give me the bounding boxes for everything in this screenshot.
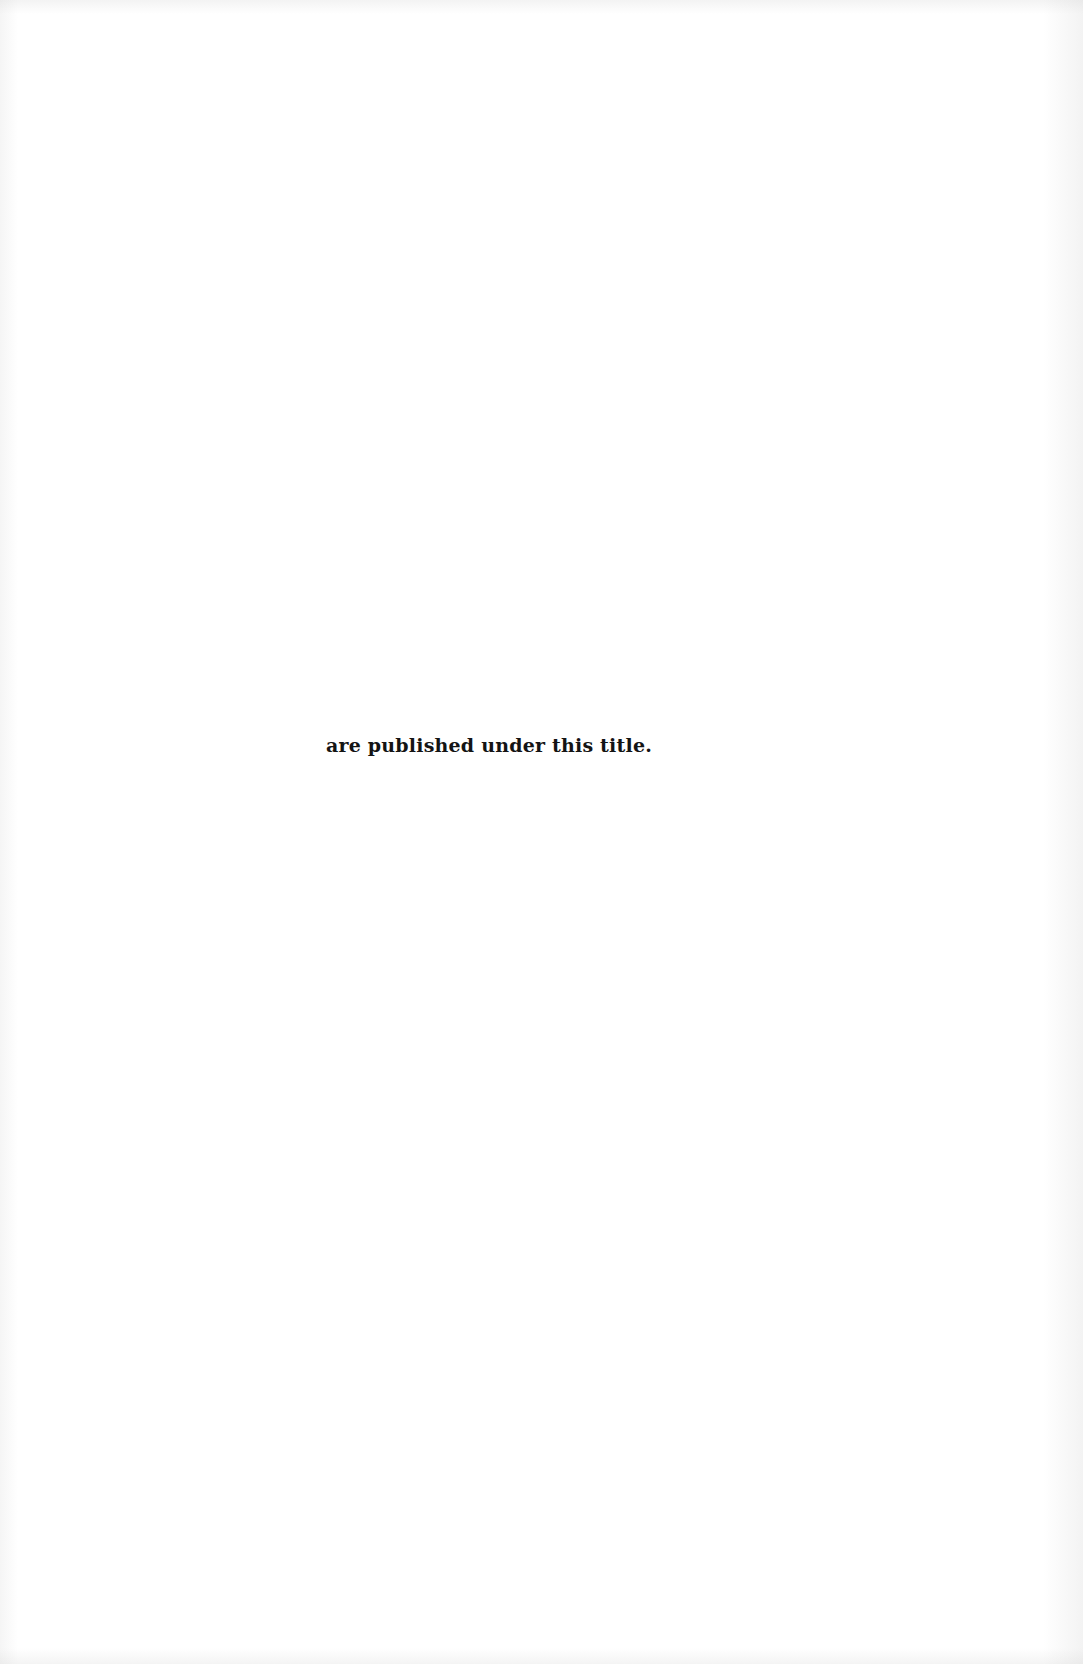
body-text-line: are published under this title. bbox=[326, 733, 656, 757]
scanned-page: are published under this title. bbox=[0, 0, 1083, 1664]
